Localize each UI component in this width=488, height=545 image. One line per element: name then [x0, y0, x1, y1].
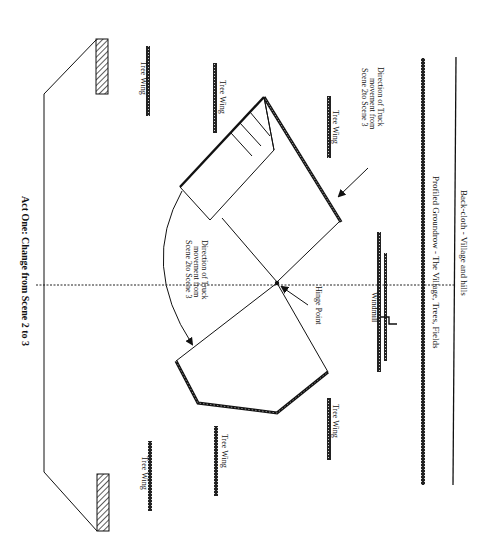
direction-arrow-upper: Direction of Truck movement from Scene 2… [339, 67, 385, 196]
profiled-groundrow: Profiled Groundrow - The Village, Trees,… [421, 58, 441, 485]
groundrow-label: Profiled Groundrow - The Village, Trees,… [431, 176, 441, 349]
stage-plan-diagram: Back-cloth - Village and hills Profiled … [0, 0, 488, 545]
tree-wing-bottom-downstage: Tree Wing [140, 441, 152, 511]
tree-wing-bottom-middle: Tree Wing [214, 426, 229, 496]
direction-mid-line3: Scene 2to Scene 3 [184, 240, 193, 298]
hinge-point: Hinge Point [275, 281, 323, 325]
direction-upper-line3: Scene 2to Scene 3 [360, 68, 369, 126]
svg-text:Tree Wing: Tree Wing [140, 456, 149, 490]
svg-text:Tree Wing: Tree Wing [331, 404, 340, 438]
windmill: Windmill [370, 232, 397, 372]
tree-wing-top-downstage: Tree Wing [139, 46, 150, 116]
svg-text:Tree Wing: Tree Wing [139, 61, 148, 95]
svg-text:Tree Wing: Tree Wing [331, 110, 340, 144]
diagram-title: Act One: Change from Scene 2 to 3 [20, 196, 31, 346]
direction-arrow-curved: Direction of Truck movement from Scene 2… [163, 191, 209, 344]
proscenium-pillar-bottom [97, 474, 109, 531]
backcloth-label: Back-cloth - Village and hills [459, 190, 469, 296]
backcloth: Back-cloth - Village and hills [453, 57, 469, 485]
svg-text:Tree Wing: Tree Wing [218, 80, 227, 114]
svg-text:Tree Wing: Tree Wing [220, 434, 229, 468]
tree-wing-top-middle: Tree Wing [213, 63, 227, 133]
tree-wing-bottom-upstage: Tree Wing [327, 398, 340, 460]
hinge-point-label: Hinge Point [314, 286, 323, 325]
windmill-label: Windmill [370, 292, 379, 323]
proscenium-pillar-top [96, 39, 108, 94]
tree-wing-top-upstage: Tree Wing [327, 96, 340, 158]
